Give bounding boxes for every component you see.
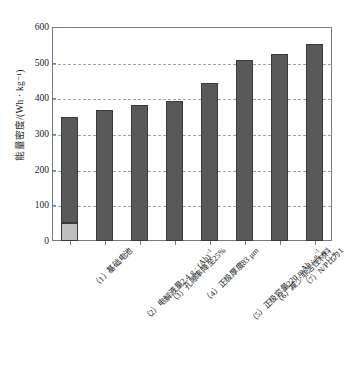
x-axis-labels: （1）基础电池（2）电解液量2.4 g · (Ah)-1（3）孔隙率降至25%（… [0, 0, 351, 369]
x-tick-mark [210, 241, 211, 245]
y-tick-mark [52, 205, 56, 206]
bar-chart: 能量密度/(Wh · kg⁻¹) 0100200300400500600 （1）… [0, 0, 351, 369]
y-tick-mark [52, 63, 56, 64]
y-tick-mark [52, 134, 56, 135]
y-tick-mark [52, 98, 56, 99]
x-tick-mark [245, 241, 246, 245]
x-tick-mark [140, 241, 141, 245]
x-tick-label: （1）基础电池 [91, 246, 134, 289]
x-tick-mark [175, 241, 176, 245]
x-tick-mark [315, 241, 316, 245]
x-tick-label: （2）电解液量2.4 g · (Ah)-1 [139, 246, 216, 323]
y-tick-mark [52, 170, 56, 171]
x-tick-label: （6）减少非活性材料 [273, 246, 333, 306]
x-tick-mark [70, 241, 71, 245]
x-tick-mark [280, 241, 281, 245]
x-tick-mark [105, 241, 106, 245]
